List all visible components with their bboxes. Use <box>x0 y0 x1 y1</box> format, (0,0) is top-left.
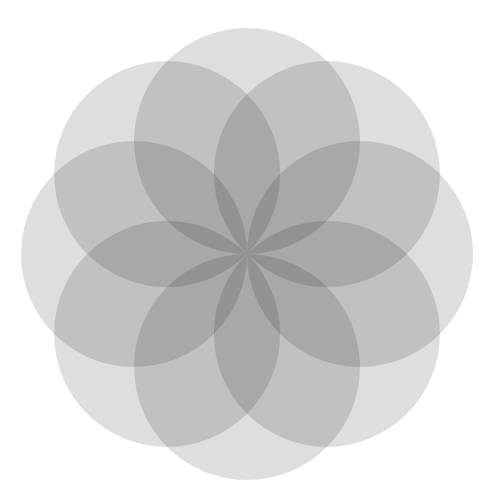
circle-group <box>21 28 473 480</box>
petal-circle-8 <box>54 61 280 287</box>
rosette-diagram <box>0 0 492 504</box>
